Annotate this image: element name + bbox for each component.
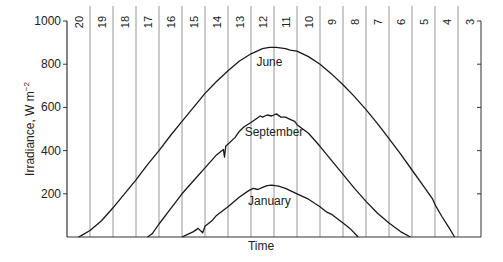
series-label-june: June bbox=[256, 55, 282, 69]
hour-label: 12 bbox=[257, 16, 269, 28]
y-tick-label: 200 bbox=[41, 187, 61, 201]
y-axis-title-main: Irradiance, W m bbox=[23, 91, 37, 176]
hour-label: 11 bbox=[280, 16, 292, 27]
hour-label: 10 bbox=[303, 16, 315, 28]
y-axis-title: Irradiance, W m−2 bbox=[22, 82, 37, 176]
hour-label: 3 bbox=[464, 19, 476, 25]
y-tick-label: 400 bbox=[41, 144, 61, 158]
y-axis-title-sup: −2 bbox=[22, 82, 31, 92]
y-tick-label: 800 bbox=[41, 57, 61, 71]
hour-label: 17 bbox=[142, 16, 154, 28]
irradiance-chart: 20191817161514131211109876543 2004006008… bbox=[0, 0, 503, 262]
hour-label: 14 bbox=[211, 16, 223, 28]
hour-label: 18 bbox=[119, 16, 131, 28]
hour-label: 5 bbox=[418, 19, 430, 25]
hour-label: 15 bbox=[188, 16, 200, 28]
hour-label: 6 bbox=[395, 19, 407, 25]
hour-label: 20 bbox=[73, 16, 85, 28]
hour-label: 8 bbox=[349, 19, 361, 25]
hour-label: 7 bbox=[372, 19, 384, 25]
series-label-january: January bbox=[248, 194, 291, 208]
series-label-september: September bbox=[245, 125, 304, 139]
hour-label: 4 bbox=[441, 19, 453, 25]
series-line-june bbox=[79, 47, 455, 237]
x-axis-title: Time bbox=[248, 239, 275, 253]
y-tick-label: 600 bbox=[41, 100, 61, 114]
svg-text:Irradiance, W m−2: Irradiance, W m−2 bbox=[22, 82, 37, 176]
hour-label: 13 bbox=[234, 16, 246, 28]
hour-label: 16 bbox=[165, 16, 177, 28]
hour-label: 9 bbox=[326, 19, 338, 25]
hour-label: 19 bbox=[96, 16, 108, 28]
series-lines bbox=[79, 47, 455, 237]
y-tick-label: 1000 bbox=[34, 14, 61, 28]
